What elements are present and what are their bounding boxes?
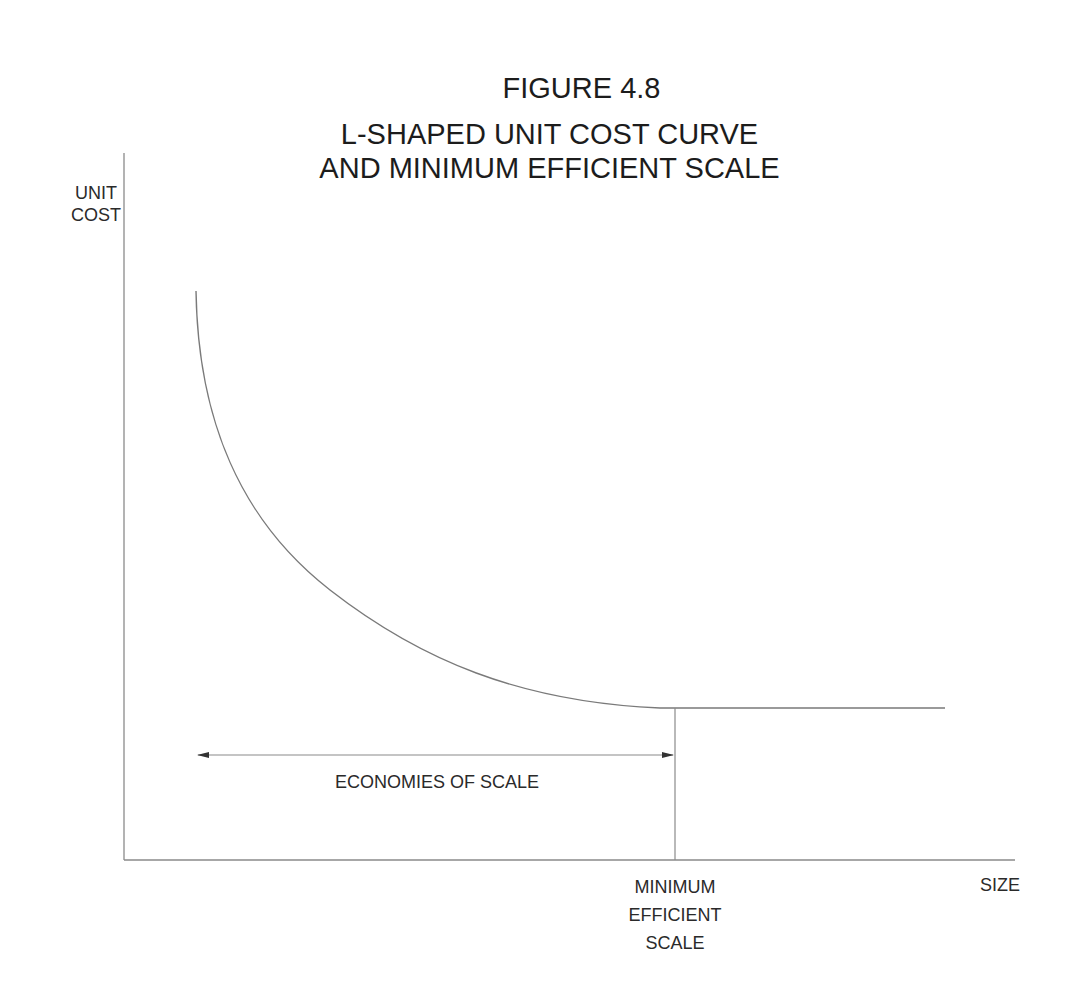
mes-label-line1: MINIMUM [600,873,750,901]
mes-label-line3: SCALE [600,929,750,957]
economies-of-scale-label: ECONOMIES OF SCALE [287,771,587,793]
mes-label-line2: EFFICIENT [600,901,750,929]
chart-canvas [0,0,1075,996]
y-axis-label-line2: COST [66,204,126,226]
y-axis-label-line1: UNIT [66,182,126,204]
x-axis-label: SIZE [960,874,1040,896]
mes-label: MINIMUM EFFICIENT SCALE [600,873,750,957]
unit-cost-curve [196,291,945,708]
y-axis-label: UNIT COST [66,182,126,226]
